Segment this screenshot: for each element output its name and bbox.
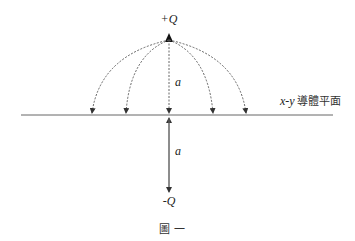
distance-top-label: a [175, 75, 181, 89]
image-charge-diagram: +Q a a -Q x-y 導體平面 圖 一 [0, 0, 355, 241]
figure-caption: 圖 一 [159, 223, 185, 236]
plane-var-label: x-y [279, 94, 295, 108]
charge-top-label: +Q [161, 12, 178, 26]
plane-text-label: 導體平面 [297, 94, 341, 108]
field-lines [92, 40, 246, 113]
charge-bottom-label: -Q [163, 194, 176, 208]
distance-bottom-label: a [175, 144, 181, 158]
